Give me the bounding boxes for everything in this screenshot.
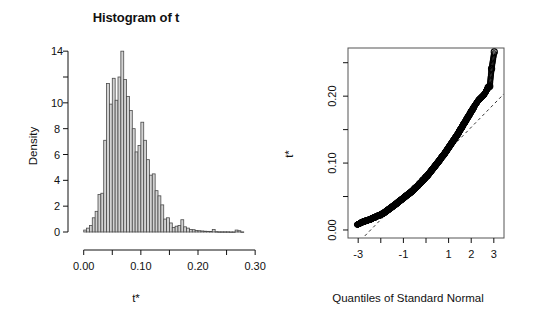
svg-text:3: 3 xyxy=(491,248,497,260)
histogram-bar xyxy=(212,229,215,232)
histogram-bar xyxy=(129,111,132,232)
histogram-bar xyxy=(169,223,172,232)
qq-plot-panel: t* Quantiles of Standard Normal 0.000.10… xyxy=(272,0,544,324)
histogram-bar xyxy=(121,51,124,232)
histogram-bar xyxy=(209,231,212,232)
histogram-bar xyxy=(178,226,181,232)
histogram-x-axis: 0.000.100.200.30 xyxy=(73,250,266,272)
histogram-bar xyxy=(101,193,104,232)
histogram-bar xyxy=(201,231,204,232)
histogram-bar xyxy=(115,100,118,232)
histogram-bar xyxy=(221,232,224,233)
histogram-panel: Histogram of t Density t* 0246810140.000… xyxy=(0,0,272,324)
histogram-y-axis: 024681014 xyxy=(51,45,68,238)
histogram-bar xyxy=(224,232,227,233)
histogram-bar xyxy=(172,227,175,232)
histogram-bar xyxy=(95,211,98,232)
svg-text:0.00: 0.00 xyxy=(326,219,338,240)
svg-text:-1: -1 xyxy=(399,248,409,260)
histogram-bar xyxy=(241,232,244,233)
histogram-bar xyxy=(204,231,207,232)
histogram-bar xyxy=(167,218,170,232)
svg-text:0.10: 0.10 xyxy=(130,260,151,272)
histogram-bar xyxy=(215,232,218,233)
histogram-bar xyxy=(155,191,158,232)
histogram-bars xyxy=(84,51,244,232)
svg-text:2: 2 xyxy=(54,200,60,212)
histogram-bar xyxy=(232,232,235,233)
svg-text:0.00: 0.00 xyxy=(73,260,94,272)
svg-text:8: 8 xyxy=(54,123,60,135)
histogram-bar xyxy=(227,232,230,233)
histogram-bar xyxy=(135,152,138,232)
svg-text:2: 2 xyxy=(468,248,474,260)
histogram-bar xyxy=(195,230,198,232)
histogram-bar xyxy=(141,122,144,232)
histogram-bar xyxy=(184,227,187,232)
svg-text:6: 6 xyxy=(54,149,60,161)
figure-canvas: Histogram of t Density t* 0246810140.000… xyxy=(0,0,544,324)
histogram-bar xyxy=(158,196,161,232)
histogram-bar xyxy=(164,219,167,232)
histogram-bar xyxy=(84,230,87,232)
histogram-bar xyxy=(104,140,107,232)
qq-box-frame xyxy=(348,48,504,238)
histogram-bar xyxy=(235,230,238,232)
histogram-bar xyxy=(109,104,112,232)
histogram-bar xyxy=(175,226,178,232)
histogram-bar xyxy=(161,205,164,232)
histogram-bar xyxy=(198,231,201,232)
histogram-bar xyxy=(98,195,101,232)
histogram-bar xyxy=(138,145,141,232)
histogram-bar xyxy=(187,228,190,232)
histogram-bar xyxy=(207,231,210,232)
histogram-bar xyxy=(229,232,232,233)
svg-text:0.20: 0.20 xyxy=(187,260,208,272)
svg-text:0.30: 0.30 xyxy=(244,260,265,272)
svg-text:0.20: 0.20 xyxy=(326,85,338,106)
histogram-bar xyxy=(189,229,192,232)
svg-text:10: 10 xyxy=(51,97,63,109)
histogram-bar xyxy=(132,129,135,232)
histogram-bar xyxy=(87,228,90,232)
histogram-bar xyxy=(127,96,130,232)
svg-text:14: 14 xyxy=(51,45,63,57)
histogram-bar xyxy=(92,218,95,232)
svg-text:1: 1 xyxy=(446,248,452,260)
histogram-bar xyxy=(112,78,115,232)
qq-plot-area: 0.000.100.20-3-1123 xyxy=(272,0,544,324)
histogram-bar xyxy=(218,232,221,233)
histogram-plot-area: 0246810140.000.100.200.30 xyxy=(0,0,272,324)
svg-text:4: 4 xyxy=(54,174,60,186)
svg-text:0.10: 0.10 xyxy=(326,152,338,173)
histogram-bar xyxy=(147,160,150,232)
histogram-bar xyxy=(89,226,92,232)
histogram-bar xyxy=(192,230,195,232)
histogram-bar xyxy=(124,80,127,232)
histogram-bar xyxy=(149,175,152,232)
histogram-bar xyxy=(238,231,241,232)
histogram-bar xyxy=(107,83,110,232)
histogram-bar xyxy=(118,77,121,232)
histogram-bar xyxy=(144,140,147,232)
svg-text:-3: -3 xyxy=(353,248,363,260)
qq-y-axis: 0.000.100.20 xyxy=(326,63,348,241)
qq-points xyxy=(354,49,497,227)
histogram-bar xyxy=(152,174,155,232)
qq-x-axis: -3-1123 xyxy=(353,238,497,260)
svg-text:0: 0 xyxy=(54,226,60,238)
histogram-bar xyxy=(181,220,184,232)
